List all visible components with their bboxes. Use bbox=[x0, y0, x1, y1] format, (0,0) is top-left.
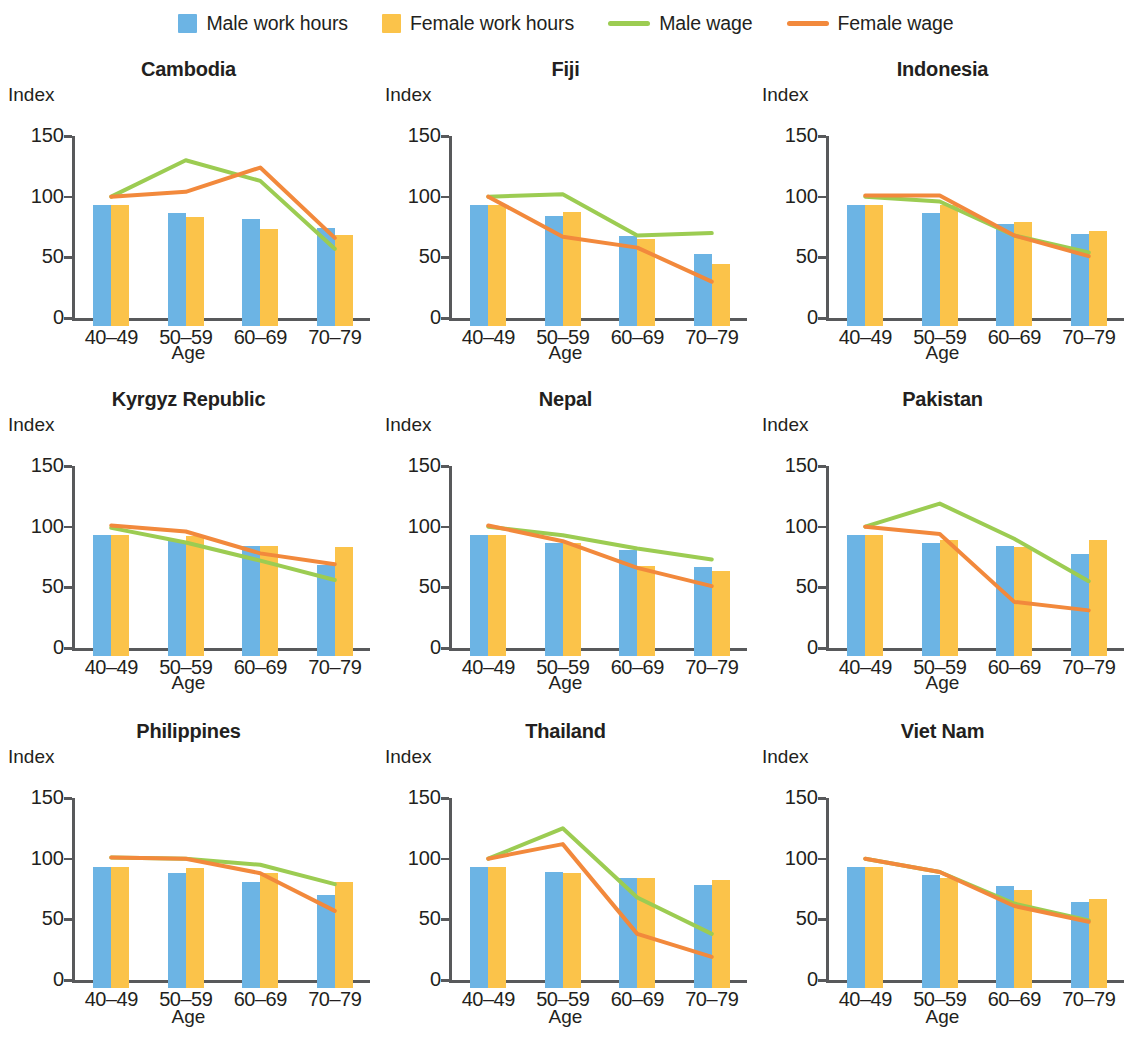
panel-title: Kyrgyz Republic bbox=[0, 388, 377, 411]
chart-panel: IndonesiaIndexAge05010015040–4950–5960–6… bbox=[754, 46, 1131, 376]
x-axis-tick-label: 70–79 bbox=[674, 988, 750, 1011]
wage-lines bbox=[826, 136, 1124, 318]
plot-area: 05010015040–4950–5960–6970–79 bbox=[72, 136, 370, 326]
y-axis-tick bbox=[441, 586, 449, 589]
y-axis-title: Index bbox=[8, 84, 54, 106]
y-axis-tick-label: 100 bbox=[758, 847, 818, 870]
panel-title: Viet Nam bbox=[754, 720, 1131, 743]
y-axis-tick bbox=[64, 196, 72, 199]
y-axis-tick-label: 100 bbox=[381, 185, 441, 208]
y-axis-tick bbox=[818, 979, 826, 982]
y-axis-tick-label: 0 bbox=[758, 636, 818, 659]
y-axis-tick-label: 100 bbox=[4, 515, 64, 538]
legend-item-0: Male work hours bbox=[178, 12, 348, 35]
y-axis-tick-label: 100 bbox=[4, 847, 64, 870]
y-axis-tick bbox=[64, 526, 72, 529]
line-female-wage bbox=[865, 527, 1089, 611]
y-axis-title: Index bbox=[8, 414, 54, 436]
x-axis-tick-label: 60–69 bbox=[976, 326, 1052, 349]
panel-title: Cambodia bbox=[0, 58, 377, 81]
y-axis-tick-label: 150 bbox=[4, 786, 64, 809]
chart-legend: Male work hoursFemale work hoursMale wag… bbox=[0, 0, 1132, 46]
y-axis-tick bbox=[441, 647, 449, 650]
y-axis-tick-label: 0 bbox=[381, 306, 441, 329]
y-axis-title: Index bbox=[762, 746, 808, 768]
panel-title: Fiji bbox=[377, 58, 754, 81]
line-female-wage bbox=[111, 857, 335, 910]
chart-panel: Viet NamIndexAge05010015040–4950–5960–69… bbox=[754, 708, 1131, 1038]
x-axis-tick-label: 50–59 bbox=[902, 656, 978, 679]
legend-item-label: Female wage bbox=[838, 12, 954, 35]
y-axis-tick bbox=[818, 647, 826, 650]
panel-title: Pakistan bbox=[754, 388, 1131, 411]
y-axis-tick-label: 0 bbox=[4, 968, 64, 991]
y-axis-title: Index bbox=[385, 746, 431, 768]
y-axis-tick-label: 150 bbox=[758, 454, 818, 477]
y-axis-tick-label: 50 bbox=[381, 245, 441, 268]
y-axis-tick-label: 0 bbox=[4, 306, 64, 329]
y-axis-tick-label: 0 bbox=[758, 306, 818, 329]
x-axis-tick-label: 50–59 bbox=[148, 656, 224, 679]
y-axis-title: Index bbox=[385, 414, 431, 436]
x-axis-tick-label: 70–79 bbox=[1051, 656, 1127, 679]
y-axis-tick bbox=[818, 858, 826, 861]
x-axis-tick-label: 70–79 bbox=[297, 656, 373, 679]
y-axis-tick-label: 100 bbox=[758, 515, 818, 538]
y-axis-tick-label: 150 bbox=[381, 124, 441, 147]
line-female-wage bbox=[865, 195, 1089, 256]
y-axis-tick bbox=[64, 918, 72, 921]
y-axis-tick bbox=[64, 465, 72, 468]
y-axis-tick bbox=[64, 256, 72, 259]
chart-panel: Kyrgyz RepublicIndexAge05010015040–4950–… bbox=[0, 376, 377, 706]
x-axis-tick-label: 60–69 bbox=[222, 656, 298, 679]
legend-item-label: Male wage bbox=[659, 12, 752, 35]
y-axis-tick bbox=[441, 465, 449, 468]
plot-area: 05010015040–4950–5960–6970–79 bbox=[449, 798, 747, 988]
plot-area: 05010015040–4950–5960–6970–79 bbox=[826, 136, 1124, 326]
x-axis-tick-label: 50–59 bbox=[148, 326, 224, 349]
line-male-wage bbox=[865, 197, 1089, 253]
x-axis-tick-label: 70–79 bbox=[674, 326, 750, 349]
x-axis-tick-label: 40–49 bbox=[73, 656, 149, 679]
y-axis-tick-label: 0 bbox=[4, 636, 64, 659]
x-axis-tick-label: 40–49 bbox=[450, 326, 526, 349]
chart-panel: FijiIndexAge05010015040–4950–5960–6970–7… bbox=[377, 46, 754, 376]
y-axis-tick bbox=[818, 586, 826, 589]
y-axis-title: Index bbox=[8, 746, 54, 768]
y-axis-tick bbox=[441, 979, 449, 982]
x-axis-tick-label: 70–79 bbox=[674, 656, 750, 679]
wage-lines bbox=[72, 136, 370, 318]
panel-grid: CambodiaIndexAge05010015040–4950–5960–69… bbox=[0, 46, 1132, 1038]
legend-item-label: Female work hours bbox=[410, 12, 574, 35]
square-swatch-icon bbox=[382, 14, 401, 33]
line-female-wage bbox=[111, 525, 335, 564]
y-axis-tick-label: 150 bbox=[4, 124, 64, 147]
legend-item-label: Male work hours bbox=[206, 12, 348, 35]
y-axis-tick bbox=[818, 196, 826, 199]
y-axis-tick-label: 50 bbox=[4, 245, 64, 268]
wage-lines bbox=[449, 136, 747, 318]
x-axis-tick-label: 60–69 bbox=[599, 326, 675, 349]
x-axis-tick-label: 60–69 bbox=[222, 326, 298, 349]
plot-area: 05010015040–4950–5960–6970–79 bbox=[826, 466, 1124, 656]
wage-lines bbox=[72, 466, 370, 648]
x-axis-tick-label: 40–49 bbox=[827, 988, 903, 1011]
plot-area: 05010015040–4950–5960–6970–79 bbox=[72, 798, 370, 988]
y-axis-tick-label: 50 bbox=[381, 575, 441, 598]
x-axis-tick-label: 70–79 bbox=[297, 326, 373, 349]
legend-item-2: Male wage bbox=[608, 12, 752, 35]
y-axis-tick-label: 0 bbox=[758, 968, 818, 991]
y-axis-tick bbox=[441, 256, 449, 259]
y-axis-tick bbox=[818, 465, 826, 468]
panel-title: Philippines bbox=[0, 720, 377, 743]
y-axis-tick bbox=[64, 797, 72, 800]
y-axis-tick-label: 100 bbox=[381, 847, 441, 870]
y-axis-tick bbox=[441, 797, 449, 800]
x-axis-tick-label: 50–59 bbox=[525, 326, 601, 349]
x-axis-tick-label: 50–59 bbox=[525, 988, 601, 1011]
x-axis-tick-label: 60–69 bbox=[599, 656, 675, 679]
wage-lines bbox=[449, 798, 747, 980]
y-axis-tick bbox=[818, 526, 826, 529]
plot-area: 05010015040–4950–5960–6970–79 bbox=[449, 136, 747, 326]
y-axis-tick-label: 50 bbox=[758, 907, 818, 930]
